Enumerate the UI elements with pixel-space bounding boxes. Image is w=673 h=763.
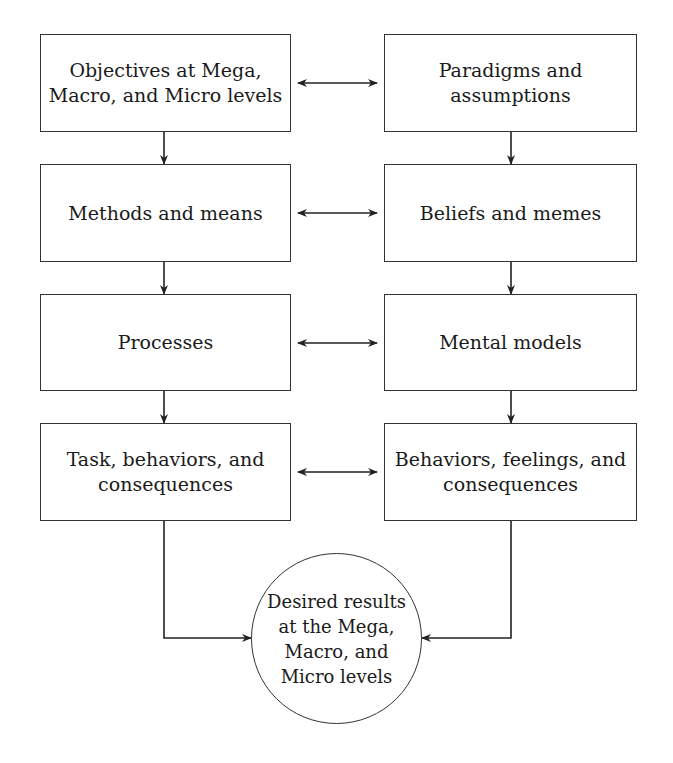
- processes-box: Processes: [40, 294, 291, 391]
- tasks-box: Task, behaviors, and consequences: [40, 423, 291, 521]
- desired-results-circle: Desired results at the Mega, Macro, and …: [251, 553, 422, 724]
- paradigms-box: Paradigms and assumptions: [384, 34, 637, 132]
- objectives-box: Objectives at Mega, Macro, and Micro lev…: [40, 34, 291, 132]
- mental-models-box: Mental models: [384, 294, 637, 391]
- behaviors-feelings-box: Behaviors, feelings, and consequences: [384, 423, 637, 521]
- methods-box: Methods and means: [40, 164, 291, 262]
- beliefs-box: Beliefs and memes: [384, 164, 637, 262]
